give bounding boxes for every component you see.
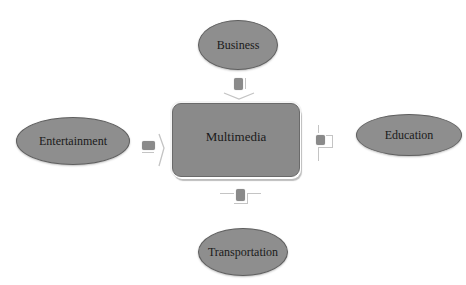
node-education: Education — [356, 114, 462, 156]
connector-top-icon — [222, 78, 256, 102]
center-node-label: Multimedia — [206, 129, 267, 145]
connector-left-icon — [140, 130, 170, 170]
center-node-multimedia: Multimedia — [172, 103, 300, 177]
node-business-label: Business — [217, 38, 260, 53]
node-education-label: Education — [385, 128, 434, 143]
node-transportation-label: Transportation — [208, 245, 278, 260]
node-transportation: Transportation — [198, 228, 288, 276]
node-business: Business — [198, 20, 278, 70]
node-entertainment: Entertainment — [16, 117, 130, 165]
connector-bottom-icon — [220, 187, 270, 211]
connector-right-icon — [312, 125, 336, 165]
node-entertainment-label: Entertainment — [39, 134, 107, 149]
